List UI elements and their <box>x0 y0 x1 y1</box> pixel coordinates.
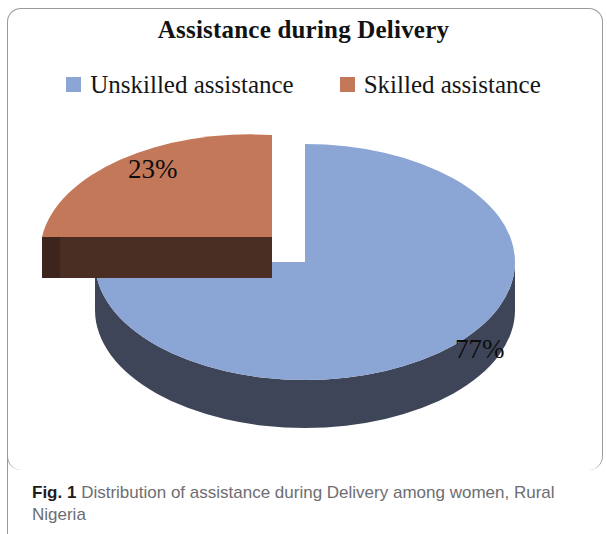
pie-slice-skilled-top <box>42 134 272 237</box>
chart-title: Assistance during Delivery <box>0 16 607 44</box>
legend-label-skilled: Skilled assistance <box>364 72 541 97</box>
figure-container: Assistance during Delivery Unskilled ass… <box>0 0 607 534</box>
pie-chart: 23% 77% <box>0 110 607 470</box>
legend-swatch-icon-skilled <box>340 77 355 92</box>
slice-value-skilled: 23% <box>128 154 178 184</box>
legend-item-skilled: Skilled assistance <box>340 72 541 97</box>
figure-caption: Fig. 1 Distribution of assistance during… <box>32 482 580 527</box>
legend-swatch-icon-unskilled <box>66 77 81 92</box>
figure-caption-text: Distribution of assistance during Delive… <box>32 483 555 524</box>
chart-legend: Unskilled assistance Skilled assistance <box>0 72 607 97</box>
legend-label-unskilled: Unskilled assistance <box>90 72 293 97</box>
pie-slice-skilled-left-wall <box>42 237 60 278</box>
pie-slice-skilled-depth <box>42 237 272 278</box>
figure-number-label: Fig. 1 <box>32 483 76 502</box>
slice-value-unskilled: 77% <box>455 334 505 364</box>
legend-item-unskilled: Unskilled assistance <box>66 72 293 97</box>
